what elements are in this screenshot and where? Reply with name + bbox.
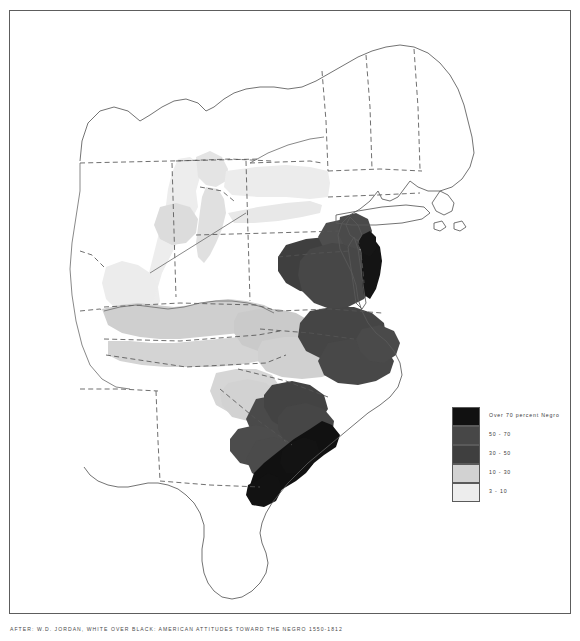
outline-newengland-coast (378, 121, 474, 201)
legend-swatch-30-50 (452, 445, 480, 464)
legend-label-30-50: 30 - 50 (489, 450, 511, 456)
region-newjersey (196, 187, 226, 263)
outline-islands (434, 221, 466, 231)
area-class-3-10 (102, 151, 330, 317)
boundary-alabama-mississippi (80, 389, 158, 391)
boundary-vermont-newhampshire (366, 55, 372, 169)
boundary-ohio-pennsylvania (250, 161, 322, 163)
boundary-mississippi-west (80, 309, 104, 311)
legend-swatch-over-70 (452, 407, 480, 426)
outline-cape-cod (432, 191, 454, 215)
boundary-nh-maine (414, 49, 420, 169)
boundary-newengland-interior (328, 169, 422, 171)
map-legend: Over 70 percent Negro 50 - 70 30 - 50 10… (443, 407, 563, 515)
outline-lake-erie (250, 137, 324, 163)
choropleth-map (10, 11, 572, 615)
legend-label-10-30: 10 - 30 (489, 469, 511, 475)
legend-swatch-50-70 (452, 426, 480, 445)
legend-row-3: 10 - 30 (443, 464, 563, 483)
region-pennsylvania-west (154, 203, 198, 245)
legend-label-over-70: Over 70 percent Negro (489, 412, 560, 418)
legend-label-50-70: 50 - 70 (489, 431, 511, 437)
boundary-georgia-florida (160, 481, 260, 487)
legend-row-0: Over 70 percent Negro (443, 407, 563, 426)
region-connecticut-coast (224, 165, 330, 199)
legend-row-1: 50 - 70 (443, 426, 563, 445)
region-southern-newyork (196, 151, 228, 187)
map-frame: Over 70 percent Negro 50 - 70 30 - 50 10… (9, 10, 571, 614)
source-caption: AFTER: W.D. JORDAN, WHITE OVER BLACK: AM… (10, 626, 343, 632)
boundary-georgia-west (156, 391, 160, 481)
choropleth-areas (102, 151, 400, 507)
boundary-midwest-upper (80, 159, 260, 163)
legend-label-3-10: 3 - 10 (489, 488, 507, 494)
outline-northern-boundary (80, 45, 468, 161)
legend-swatch-3-10 (452, 483, 480, 502)
map-page: Over 70 percent Negro 50 - 70 30 - 50 10… (0, 0, 580, 641)
legend-row-2: 30 - 50 (443, 445, 563, 464)
region-coastal-georgia (246, 473, 282, 507)
legend-swatch-10-30 (452, 464, 480, 483)
boundary-western-territory (80, 251, 104, 267)
region-long-island (228, 201, 322, 223)
boundary-ny-newengland (322, 71, 328, 171)
legend-row-4: 3 - 10 (443, 483, 563, 502)
